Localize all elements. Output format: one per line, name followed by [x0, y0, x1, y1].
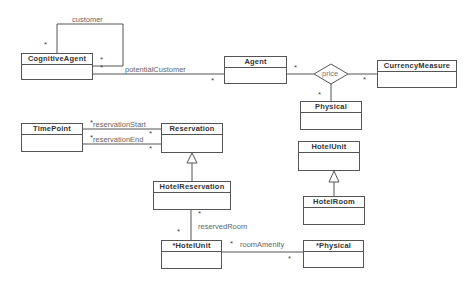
class-hotel-unit-bottom[interactable]: *HotelUnit [161, 240, 222, 269]
class-cognitive-agent[interactable]: CognitiveAgent [21, 53, 93, 80]
mult-potential-customer-from: * [100, 64, 103, 72]
class-name: Physical [301, 102, 361, 113]
mult-price-currency: * [363, 76, 366, 84]
generalization-triangle-hotelunit [329, 171, 339, 182]
class-hotel-room[interactable]: HotelRoom [303, 196, 365, 225]
class-reservation[interactable]: Reservation [161, 123, 223, 153]
class-name: TimePoint [22, 124, 82, 135]
class-agent[interactable]: Agent [224, 56, 287, 84]
mult-reservation-start-from: * [90, 119, 93, 127]
mult-customer-top: * [44, 41, 47, 49]
price-label: price [322, 69, 338, 78]
mult-room-amenity-from: * [230, 240, 233, 248]
mult-reservation-end-from: * [90, 134, 93, 142]
class-physical-top[interactable]: Physical [300, 101, 362, 130]
mult-room-amenity-to: * [288, 255, 291, 263]
class-name: HotelUnit [299, 142, 359, 153]
class-name: *Physical [304, 241, 363, 252]
customer-label: customer [72, 15, 103, 24]
class-name: CognitiveAgent [22, 54, 92, 65]
class-name: Reservation [162, 124, 222, 135]
generalization-triangle-reservation [187, 153, 197, 163]
class-time-point[interactable]: TimePoint [21, 123, 83, 152]
mult-potential-customer-to: * [211, 77, 214, 85]
room-amenity-label: roomAmenity [240, 240, 284, 249]
mult-reserved-room-to: * [177, 228, 180, 236]
class-name: Agent [225, 57, 286, 68]
potential-customer-label: potentialCustomer [125, 65, 186, 74]
class-name: *HotelUnit [162, 241, 221, 252]
mult-reserved-room-from: * [198, 210, 201, 218]
class-hotel-unit-right[interactable]: HotelUnit [298, 141, 360, 171]
class-physical-bottom[interactable]: *Physical [303, 240, 364, 268]
mult-price-physical: * [318, 91, 321, 99]
reservation-end-label: reservationEnd [93, 135, 143, 144]
mult-reservation-start-to: * [149, 130, 152, 138]
class-hotel-reservation[interactable]: HotelReservation [153, 181, 231, 210]
reserved-room-label: reservedRoom [198, 222, 247, 231]
mult-price-agent: * [294, 64, 297, 72]
mult-reservation-end-to: * [149, 145, 152, 153]
class-name: CurrencyMeasure [378, 61, 456, 72]
class-name: HotelRoom [304, 197, 364, 208]
class-name: HotelReservation [154, 182, 230, 193]
reservation-start-label: reservationStart [93, 120, 146, 129]
class-currency-measure[interactable]: CurrencyMeasure [377, 60, 457, 88]
